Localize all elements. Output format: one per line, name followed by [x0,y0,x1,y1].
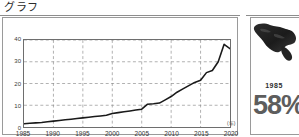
horizontal-gridlines [24,40,230,105]
y-axis-tick-label: 20 [5,81,21,87]
graph-figure: グラフ 010203040 19851990199520002005201020… [0,0,240,137]
source-frame: 1985 58% [250,17,299,135]
x-axis-unit-label: (年) [227,121,235,126]
chart-frame: 010203040 198519901995200020052010201520… [2,17,238,135]
source-year-label: 1985 [251,82,297,89]
x-axis-tick-label: 1995 [67,130,97,137]
chart-plot-area [23,39,231,128]
graph-caption: グラフ [4,2,39,13]
x-axis-tick-label: 1990 [38,130,68,137]
island-silhouette-icon [252,20,299,76]
y-axis-tick-label: 40 [5,36,21,42]
y-axis-labels: 010203040 [3,18,21,137]
data-series-line [24,44,230,123]
x-axis-tick-label: 2010 [157,130,187,137]
source-percent-value: 58% [253,92,299,119]
chart-svg [24,40,230,127]
y-axis-tick-label: 30 [5,58,21,64]
figure-pair-root: グラフ 010203040 19851990199520002005201020… [0,0,299,137]
x-axis-labels: 19851990199520002005201020152020 [3,130,241,137]
y-axis-tick-label: 10 [5,103,21,109]
x-axis-tick-label: 2015 [186,130,216,137]
graph-caption-rule [0,15,240,16]
x-axis-tick-label: 2005 [127,130,157,137]
source-caption-rule [246,15,299,16]
x-axis-tick-label: 1985 [8,130,38,137]
x-axis-tick-label: 2020 [216,130,246,137]
x-axis-tick-label: 2000 [97,130,127,137]
